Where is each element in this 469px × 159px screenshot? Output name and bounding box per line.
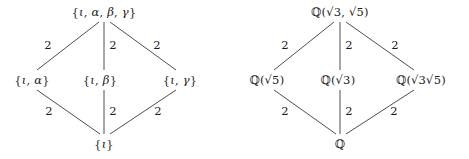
node-left-subgroups: {ι, α} <box>12 74 51 87</box>
edge-label-top-left-subgroups: 2 <box>43 40 52 52</box>
node-middle-subfields-label: ℚ(√3) <box>321 73 356 87</box>
node-middle-subgroups: {ι, β} <box>81 74 119 87</box>
node-left-subgroups-label: {ι, α} <box>14 73 49 87</box>
edge-label-bottom-right-subgroups: 2 <box>153 106 162 118</box>
edge-label-top-right-subfields: 2 <box>390 40 399 52</box>
edge-label-top-right-subgroups: 2 <box>152 40 161 52</box>
node-bottom-subgroups-label: {ι} <box>94 137 114 151</box>
node-left-subfields: ℚ(√5) <box>248 74 287 87</box>
edge-label-bottom-middle-subfields: 2 <box>344 106 353 118</box>
edge-label-bottom-left-subgroups: 2 <box>44 106 53 118</box>
edge-label-top-left-subfields: 2 <box>280 40 289 52</box>
edge-bottom-right <box>110 90 176 134</box>
edge-top-right <box>346 22 414 70</box>
edge-bottom-right <box>346 90 414 134</box>
node-bottom-subfields-label: ℚ <box>335 137 345 151</box>
edge-label-bottom-left-subfields: 2 <box>280 106 289 118</box>
node-top-subfields: ℚ(√3, √5) <box>309 6 370 19</box>
node-bottom-subgroups: {ι} <box>92 138 116 151</box>
node-left-subfields-label: ℚ(√5) <box>250 73 285 87</box>
node-top-subgroups-label: {ι, α, β, γ} <box>72 5 137 19</box>
edge-top-right <box>110 22 176 70</box>
node-right-subfields-label: ℚ(√3√5) <box>396 73 446 87</box>
figure-canvas: {ι, α, β, γ} {ι, α} {ι, β} {ι, γ} {ι} 2 … <box>0 0 469 159</box>
node-middle-subfields: ℚ(√3) <box>319 74 358 87</box>
edge-label-bottom-middle-subgroups: 2 <box>108 106 117 118</box>
node-right-subfields: ℚ(√3√5) <box>394 74 448 87</box>
node-top-subgroups: {ι, α, β, γ} <box>70 6 139 19</box>
edge-label-bottom-right-subfields: 2 <box>389 106 398 118</box>
edge-label-top-middle-subgroups: 2 <box>108 40 117 52</box>
edge-label-top-middle-subfields: 2 <box>344 40 353 52</box>
node-top-subfields-label: ℚ(√3, √5) <box>311 5 368 19</box>
lattice-of-subfields: ℚ(√3, √5) ℚ(√5) ℚ(√3) ℚ(√3√5) ℚ 2 2 2 2 … <box>234 0 469 159</box>
node-right-subgroups: {ι, γ} <box>161 74 200 87</box>
node-right-subgroups-label: {ι, γ} <box>163 73 198 87</box>
node-bottom-subfields: ℚ <box>333 138 347 151</box>
node-middle-subgroups-label: {ι, β} <box>83 73 117 87</box>
lattice-of-subgroups: {ι, α, β, γ} {ι, α} {ι, β} {ι, γ} {ι} 2 … <box>0 0 234 159</box>
